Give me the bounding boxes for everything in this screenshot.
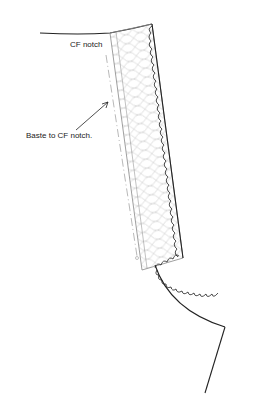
cf-notch-marker [136,257,139,260]
side-seam [205,327,225,393]
baste-label: Baste to CF notch. [26,131,92,140]
hem-stitches [156,270,218,297]
cf-notch-label: CF notch [70,40,102,49]
baste-arrow [76,102,108,130]
interfaced-band [110,24,183,270]
sewing-diagram [0,0,255,418]
